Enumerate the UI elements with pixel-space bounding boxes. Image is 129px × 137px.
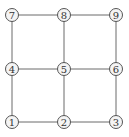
- node-8: 8: [58, 9, 71, 22]
- node-label: 5: [61, 64, 67, 75]
- node-2: 2: [58, 116, 71, 129]
- node-label: 2: [61, 117, 67, 128]
- node-label: 6: [113, 64, 119, 75]
- node-6: 6: [110, 63, 123, 76]
- node-label: 4: [9, 64, 15, 75]
- node-label: 9: [113, 10, 119, 21]
- node-4: 4: [6, 63, 19, 76]
- node-7: 7: [6, 9, 19, 22]
- node-label: 1: [9, 117, 15, 128]
- node-1: 1: [6, 116, 19, 129]
- node-5: 5: [58, 63, 71, 76]
- node-label: 7: [9, 10, 15, 21]
- node-label: 8: [61, 10, 67, 21]
- node-3: 3: [110, 116, 123, 129]
- grid-graph: 123456789: [0, 0, 129, 137]
- node-label: 3: [113, 117, 119, 128]
- node-9: 9: [110, 9, 123, 22]
